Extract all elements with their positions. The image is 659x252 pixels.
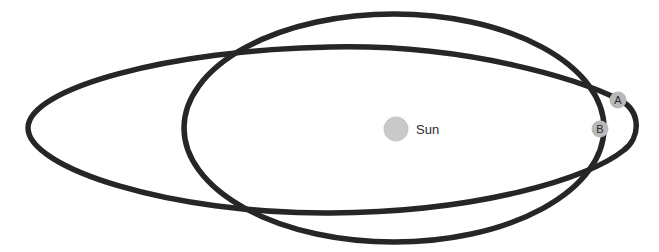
orbit-elongated: [28, 47, 636, 213]
sun-label: Sun: [416, 122, 439, 137]
sun-icon: [384, 117, 409, 142]
orbit-diagram: Sun A B: [0, 0, 659, 252]
point-b-label: B: [596, 123, 603, 135]
point-a-label: A: [614, 94, 622, 106]
